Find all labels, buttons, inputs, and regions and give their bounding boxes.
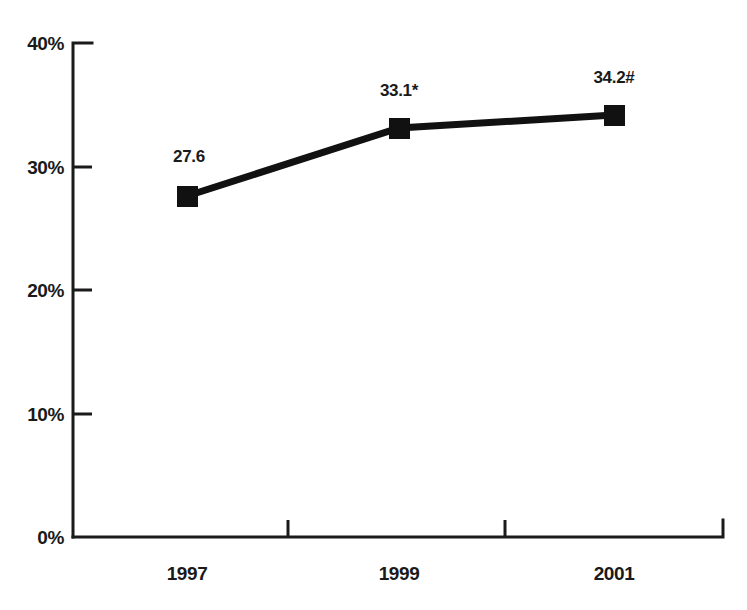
data-label-1999: 33.1*: [380, 81, 419, 100]
data-point-marker-1999: [389, 118, 410, 139]
y-tick-labels: 40% 30% 20% 10% 0%: [27, 33, 64, 548]
series-group: [177, 105, 625, 207]
x-tick-label-1999: 1999: [379, 563, 420, 584]
y-tick-label-40: 40%: [27, 33, 64, 54]
x-tick-marks: [288, 520, 505, 537]
y-tick-marks: [73, 167, 92, 414]
y-tick-label-20: 20%: [27, 280, 64, 301]
x-tick-label-2001: 2001: [594, 563, 636, 584]
x-axis-line: [73, 520, 723, 537]
y-tick-label-0: 0%: [37, 527, 64, 548]
y-tick-label-30: 30%: [27, 157, 64, 178]
x-tick-labels: 1997 1999 2001: [167, 563, 636, 584]
data-label-2001: 34.2#: [593, 68, 635, 87]
data-point-marker-1997: [177, 186, 198, 207]
x-tick-label-1997: 1997: [167, 563, 208, 584]
chart-canvas: 40% 30% 20% 10% 0% 1997 1999 2001 27.6 3…: [0, 0, 747, 610]
axis-group: [73, 43, 723, 537]
line-chart: 40% 30% 20% 10% 0% 1997 1999 2001 27.6 3…: [0, 0, 747, 610]
y-tick-label-10: 10%: [27, 404, 64, 425]
data-label-1997: 27.6: [173, 147, 205, 166]
data-point-marker-2001: [604, 105, 625, 126]
